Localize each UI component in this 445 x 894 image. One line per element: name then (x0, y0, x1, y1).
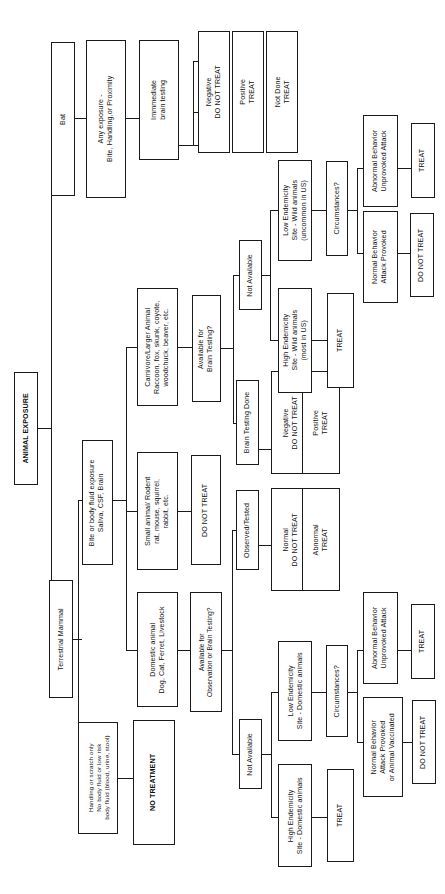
connector (271, 692, 278, 693)
node-label: DO NOT TREAT (202, 483, 211, 536)
node-terrestrial-mammal[interactable]: Terrestrial Mammal (49, 580, 73, 698)
node-small-animal-rodent[interactable]: Small animal/ Rodent rat, mouse, squirre… (137, 452, 178, 570)
connector (348, 692, 357, 693)
node-bat-positive-treat[interactable]: Positive TREAT (232, 31, 264, 153)
connector (178, 650, 190, 651)
connector (312, 692, 326, 693)
node-observed-abnormal-treat[interactable]: Abnormal TREAT (302, 488, 340, 591)
connector (221, 348, 233, 349)
node-label: Available for Brain Testing? (198, 325, 216, 371)
node-carnivore-larger-animal[interactable]: Carnivore/Larger Animal Raccoon, fox, sk… (137, 288, 178, 406)
node-label: ANIMAL EXPOSURE (22, 393, 31, 463)
flowchart-canvas: ANIMAL EXPOSURE Bat Terrestrial Mammal A… (0, 0, 445, 894)
node-treat-domestic-abnormal[interactable]: TREAT (411, 604, 435, 679)
node-abnormal-behavior-unprovoked-attack-domestic[interactable]: Abnormal Behavior Unprovoked Attack (363, 592, 398, 684)
node-label: Abnormal Behavior Unprovoked Attack (372, 607, 390, 669)
node-normal-behavior-attack-provoked-domestic[interactable]: Normal Behavior Attack Provoked or Anima… (363, 697, 403, 797)
node-treat-wild-high-endemicity[interactable]: TREAT (327, 293, 354, 388)
node-do-not-treat-wild-normal[interactable]: DO NOT TREAT (410, 213, 434, 297)
node-label: TREAT (419, 630, 428, 653)
node-available-for-brain-testing[interactable]: Available for Brain Testing? (192, 295, 221, 402)
node-do-not-treat-rodent[interactable]: DO NOT TREAT (191, 455, 221, 565)
connector (75, 118, 86, 119)
node-high-endemicity-wild[interactable]: High Endemicity Site - Wild animals (mos… (278, 288, 312, 393)
node-label: DO NOT TREAT (418, 228, 427, 281)
node-label: Abnormal Behavior Unprovoked Attack (372, 130, 390, 192)
node-label: Carnivore/Larger Animal Raccoon, fox, sk… (144, 300, 171, 394)
node-animal-exposure[interactable]: ANIMAL EXPOSURE (14, 372, 38, 485)
node-bat[interactable]: Bat (51, 42, 75, 196)
node-label: Observed/Tested (243, 502, 252, 557)
node-bat-not-done-treat[interactable]: Not Done TREAT (266, 31, 298, 153)
node-label: Normal Behavior Attack Provoked (372, 230, 390, 284)
node-label: Low Endemicity Site - Domestic animals (286, 653, 304, 730)
connector (126, 511, 137, 512)
node-abnormal-behavior-unprovoked-attack-wild[interactable]: Abnormal Behavior Unprovoked Attack (363, 115, 398, 207)
node-label: Small animal/ Rodent rat, mouse, squirre… (144, 476, 171, 545)
node-circumstances-domestic[interactable]: Circumstances? (326, 645, 348, 737)
node-label: Negative DO NOT TREAT (205, 65, 223, 118)
node-normal-behavior-attack-provoked-wild[interactable]: Normal Behavior Attack Provoked (363, 211, 398, 303)
connector (357, 168, 358, 253)
node-label: Available for Observation or Brain Testi… (198, 607, 214, 697)
connector (118, 778, 133, 779)
node-handling-or-scratch-only[interactable]: Handling or scratch only No body fluid o… (78, 722, 118, 834)
connector (113, 500, 126, 501)
node-bite-or-body-fluid-exposure[interactable]: Bite or body fluid exposure Saliva, CSF,… (82, 440, 113, 565)
node-low-endemicity-wild[interactable]: Low Endemicity Site - Wild animals (unco… (278, 160, 312, 261)
connector (179, 145, 193, 146)
connector (193, 61, 194, 145)
node-label: High Endemicity Site - Wild animals (mos… (282, 310, 309, 371)
connector (233, 275, 234, 423)
node-label: TREAT (419, 149, 428, 172)
node-label: Not Available (246, 733, 255, 776)
connector (232, 754, 239, 755)
connector (126, 347, 137, 348)
node-bat-negative-do-not-treat[interactable]: Negative DO NOT TREAT (198, 31, 230, 153)
node-label: TREAT (336, 329, 345, 352)
connector (312, 817, 327, 818)
node-low-endemicity-domestic[interactable]: Low Endemicity Site - Domestic animals (278, 641, 312, 741)
connector (271, 817, 278, 818)
node-not-available-wild[interactable]: Not Available (239, 240, 262, 310)
connector (232, 530, 233, 754)
node-label: Abnormal TREAT (312, 524, 330, 555)
node-label: Bite or body fluid exposure Saliva, CSF,… (89, 459, 107, 546)
connector (271, 692, 272, 817)
node-immediate-brain-testing[interactable]: Immmediate brain testing (139, 40, 179, 160)
connector (178, 511, 191, 512)
node-observed-tested[interactable]: Observed/Tested (236, 490, 259, 570)
node-treat-wild-abnormal[interactable]: TREAT (411, 123, 435, 198)
connector (126, 118, 139, 119)
node-label: Not Done TREAT (273, 77, 291, 108)
connector (403, 742, 412, 743)
node-not-available-domestic[interactable]: Not Available (239, 719, 262, 789)
node-treat-domestic-high-endemicity[interactable]: TREAT (327, 769, 354, 862)
connector (357, 650, 358, 742)
connector (51, 118, 52, 639)
node-label: Positive TREAT (239, 79, 257, 105)
node-no-treatment[interactable]: NO TREATMENT (133, 720, 175, 845)
node-label: Low Endemicity Site - Wild animals (unco… (282, 180, 309, 241)
connector (398, 253, 410, 254)
node-domestic-animal[interactable]: Domestic animal Dog, Cat, Ferret, Livest… (137, 592, 178, 707)
connector (398, 168, 411, 169)
node-label: Positive TREAT (312, 410, 330, 436)
node-label: Normal DO NOT TREAT (282, 513, 300, 566)
connector (38, 428, 51, 429)
node-circumstances-wild[interactable]: Circumstances? (326, 161, 348, 256)
node-label: Handling or scratch only No body fluid o… (86, 736, 109, 820)
connector (126, 650, 137, 651)
node-brain-testing-done[interactable]: Brain Testing Done (236, 380, 259, 465)
connector (262, 754, 271, 755)
node-do-not-treat-domestic-normal[interactable]: DO NOT TREAT (412, 700, 436, 784)
node-label: DO NOT TREAT (420, 715, 429, 768)
node-label: High Endemicity Site - Domestic animals (286, 777, 304, 854)
node-label: Brain Testing Done (243, 392, 252, 454)
node-available-for-observation-or-brain-testing[interactable]: Available for Observation or Brain Testi… (190, 592, 222, 712)
node-high-endemicity-domestic[interactable]: High Endemicity Site - Domestic animals (278, 764, 312, 867)
node-label: Circumstances? (333, 665, 342, 717)
node-label: Negative DO NOT TREAT (282, 396, 300, 449)
node-label: Terrestrial Mammal (57, 608, 66, 670)
node-any-exposure[interactable]: Any exposure - Bite, Handling,or Proximi… (86, 40, 126, 198)
